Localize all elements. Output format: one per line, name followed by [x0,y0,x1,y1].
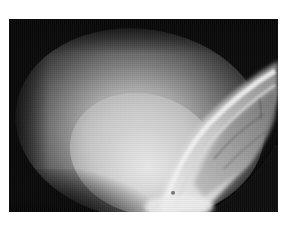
curved-band-structure [9,19,278,212]
photo-frame [9,19,278,212]
